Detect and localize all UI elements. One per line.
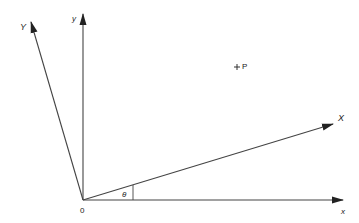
y-axis-label: y (71, 14, 77, 23)
rotated-y-axis (31, 22, 83, 200)
rotated-y-label: Y (20, 22, 27, 32)
rotated-x-label: X (337, 113, 345, 123)
rotated-x-axis (83, 124, 333, 200)
origin-label: 0 (80, 206, 85, 215)
x-axis-label: x (340, 207, 346, 216)
theta-label: θ (122, 190, 127, 199)
point-p-label: P (242, 62, 247, 71)
point-p-marker (234, 64, 240, 70)
rotation-diagram: 0 x y X Y θ P (0, 0, 359, 223)
